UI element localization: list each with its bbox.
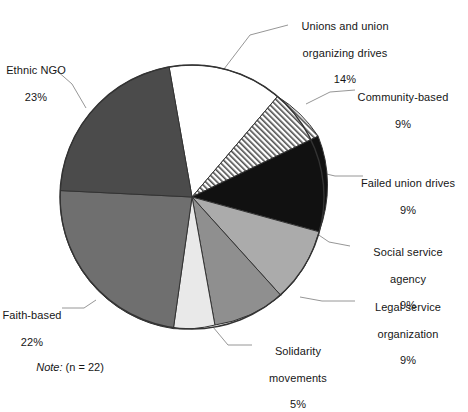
- pie-slices: [60, 65, 327, 329]
- slice-label-line1: Social service: [352, 246, 464, 259]
- chart-note-value: (n = 22): [63, 361, 104, 373]
- leader-line-faith: [62, 300, 96, 308]
- chart-note-prefix: Note:: [36, 361, 62, 373]
- leader-line-legal: [300, 297, 355, 301]
- slice-label-line2: movements: [246, 372, 350, 385]
- slice-label-failed-union-drives: Failed union drives 9%: [348, 164, 468, 230]
- slice-label-line1: Solidarity: [246, 345, 350, 358]
- slice-label-line1: Unions and union: [265, 20, 425, 33]
- slice-label-ethnic-ngo: Ethnic NGO 23%: [2, 51, 70, 117]
- slice-label-line1: Community-based: [341, 91, 465, 104]
- slice-label-legal-service-organization: Legal service organization 9%: [352, 288, 464, 380]
- slice-label-line1: Ethnic NGO: [2, 64, 70, 77]
- slice-label-line1: Legal service: [352, 301, 464, 314]
- slice-label-line2: organizing drives: [265, 47, 425, 60]
- slice-label-community-based: Community-based 9%: [341, 78, 465, 144]
- slice-percent: 9%: [348, 204, 468, 217]
- slice-percent: 9%: [341, 118, 465, 131]
- slice-label-solidarity-movements: Solidarity movements 5%: [246, 332, 350, 412]
- slice-percent: 5%: [246, 398, 350, 411]
- slice-label-line2: organization: [352, 328, 464, 341]
- slice-label-line1: Failed union drives: [348, 177, 468, 190]
- slice-label-line2: agency: [352, 273, 464, 286]
- pie-slice-ethnic-ngo[interactable]: [60, 67, 192, 197]
- slice-label-line1: Faith-based: [0, 309, 64, 322]
- slice-percent: 22%: [0, 336, 64, 349]
- slice-percent: 9%: [352, 354, 464, 367]
- chart-note: Note: (n = 22): [24, 348, 104, 387]
- slice-percent: 23%: [2, 91, 70, 104]
